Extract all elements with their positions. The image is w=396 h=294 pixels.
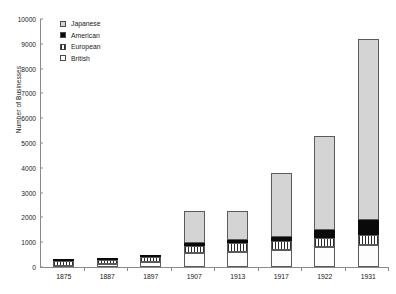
x-axis-tick-label: 1922 — [317, 273, 332, 280]
bar-1931[interactable] — [358, 39, 379, 267]
bar-segment-british — [314, 247, 335, 267]
legend: JapaneseAmericanEuropeanBritish — [60, 18, 100, 64]
bar-segment-british — [184, 253, 205, 267]
bar-segment-european — [227, 243, 248, 251]
bar-segment-european — [97, 260, 118, 264]
x-axis-tick-label: 1907 — [187, 273, 202, 280]
y-axis-tick-mark — [40, 68, 43, 69]
bar-segment-british — [227, 252, 248, 267]
bar-segment-american — [314, 230, 335, 237]
x-axis-tick-mark — [127, 267, 128, 271]
y-axis-tick-mark — [40, 217, 43, 218]
bar-1887[interactable] — [97, 260, 118, 267]
y-axis-tick-mark — [40, 19, 43, 20]
bar-1913[interactable] — [227, 211, 248, 267]
bar-segment-american — [140, 255, 161, 257]
bar-segment-american — [97, 258, 118, 260]
bar-segment-british — [140, 262, 161, 267]
y-axis-tick-label: 1000 — [21, 239, 40, 246]
bar-segment-european — [314, 238, 335, 247]
y-axis-title: Number of Businesses — [15, 30, 22, 170]
y-axis-tick-mark — [40, 143, 43, 144]
x-axis-tick-mark — [214, 267, 215, 271]
y-axis-line — [40, 19, 41, 268]
bar-1875[interactable] — [53, 261, 74, 267]
y-axis-tick-label: 0 — [32, 264, 40, 271]
bar-segment-british — [97, 264, 118, 267]
legend-item-japanese[interactable]: Japanese — [60, 18, 100, 30]
x-axis-tick-label: 1931 — [361, 273, 376, 280]
bar-segment-american — [358, 220, 379, 235]
bar-segment-american — [227, 240, 248, 243]
legend-item-british[interactable]: British — [60, 53, 100, 65]
y-axis-tick-label: 6000 — [21, 115, 40, 122]
y-axis-tick-mark — [40, 93, 43, 94]
x-axis-tick-mark — [258, 267, 259, 271]
bar-segment-japanese — [314, 136, 335, 231]
bar-segment-british — [358, 245, 379, 267]
y-axis-tick-mark — [40, 267, 43, 268]
legend-item-european[interactable]: European — [60, 41, 100, 53]
legend-label: British — [71, 55, 90, 62]
bar-1917[interactable] — [271, 173, 292, 267]
y-axis-tick-mark — [40, 242, 43, 243]
x-axis-tick-label: 1913 — [230, 273, 245, 280]
x-axis-tick-label: 1917 — [274, 273, 289, 280]
y-axis-tick-label: 2000 — [21, 214, 40, 221]
y-axis-tick-label: 10000 — [18, 16, 40, 23]
x-axis-tick-label: 1897 — [143, 273, 158, 280]
legend-label: American — [71, 32, 100, 39]
legend-swatch-icon — [60, 21, 66, 27]
y-axis-tick-mark — [40, 167, 43, 168]
y-axis-tick-mark — [40, 118, 43, 119]
bar-segment-japanese — [358, 39, 379, 220]
bar-segment-american — [53, 259, 74, 261]
bar-1907[interactable] — [184, 211, 205, 267]
bar-segment-japanese — [271, 173, 292, 237]
y-axis-tick-label: 4000 — [21, 164, 40, 171]
chart-figure: Number of Businesses 0100020003000400050… — [0, 0, 396, 294]
y-axis-tick-label: 9000 — [21, 40, 40, 47]
bar-segment-european — [140, 257, 161, 263]
y-axis-tick-label: 7000 — [21, 90, 40, 97]
x-axis-tick-label: 1875 — [56, 273, 71, 280]
bar-segment-japanese — [184, 211, 205, 243]
x-axis-tick-mark — [171, 267, 172, 271]
bar-1922[interactable] — [314, 136, 335, 267]
bar-segment-european — [184, 246, 205, 253]
y-axis-tick-label: 5000 — [21, 140, 40, 147]
x-axis-tick-mark — [345, 267, 346, 271]
bar-segment-american — [271, 237, 292, 240]
bar-segment-american — [184, 243, 205, 246]
y-axis-tick-mark — [40, 192, 43, 193]
x-axis-tick-mark — [84, 267, 85, 271]
bar-segment-european — [53, 261, 74, 266]
bar-segment-british — [271, 250, 292, 267]
legend-item-american[interactable]: American — [60, 30, 100, 42]
legend-swatch-icon — [60, 32, 66, 38]
y-axis-tick-mark — [40, 43, 43, 44]
y-axis-tick-label: 8000 — [21, 65, 40, 72]
legend-swatch-icon — [60, 55, 66, 61]
bar-1897[interactable] — [140, 256, 161, 267]
bar-segment-japanese — [227, 211, 248, 240]
bar-segment-european — [358, 235, 379, 245]
legend-swatch-icon — [60, 44, 66, 50]
x-axis-tick-mark — [388, 267, 389, 271]
legend-label: European — [71, 43, 100, 50]
x-axis-tick-label: 1887 — [100, 273, 115, 280]
y-axis-tick-label: 3000 — [21, 189, 40, 196]
x-axis-tick-mark — [301, 267, 302, 271]
legend-label: Japanese — [71, 20, 100, 27]
bar-segment-european — [271, 241, 292, 250]
